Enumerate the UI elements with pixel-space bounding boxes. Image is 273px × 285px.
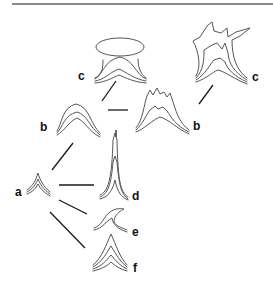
shape-a-icon — [27, 173, 50, 196]
shape-c-right-icon — [193, 22, 250, 84]
label-a: a — [15, 186, 22, 198]
shape-f-icon — [93, 234, 127, 271]
shape-b-left-icon — [57, 104, 100, 137]
shape-c-left-icon — [95, 38, 146, 83]
morphology-diagram — [0, 0, 273, 285]
label-b-right: b — [193, 120, 200, 132]
shape-e-icon — [94, 209, 127, 232]
label-c-right: c — [252, 71, 259, 83]
connectors — [50, 81, 213, 248]
edge-a-f — [50, 212, 85, 248]
edge-bleft-cleft — [102, 81, 116, 101]
edge-a-bleft — [52, 143, 73, 170]
label-c-left: c — [78, 70, 85, 82]
label-b-left: b — [40, 121, 47, 133]
shape-b-right-icon — [136, 88, 189, 134]
shape-d-icon — [100, 133, 128, 200]
label-d: d — [132, 190, 139, 202]
label-e: e — [132, 226, 139, 238]
edge-bright-cright — [199, 85, 213, 104]
edge-a-e — [59, 200, 87, 214]
label-f: f — [133, 262, 137, 274]
